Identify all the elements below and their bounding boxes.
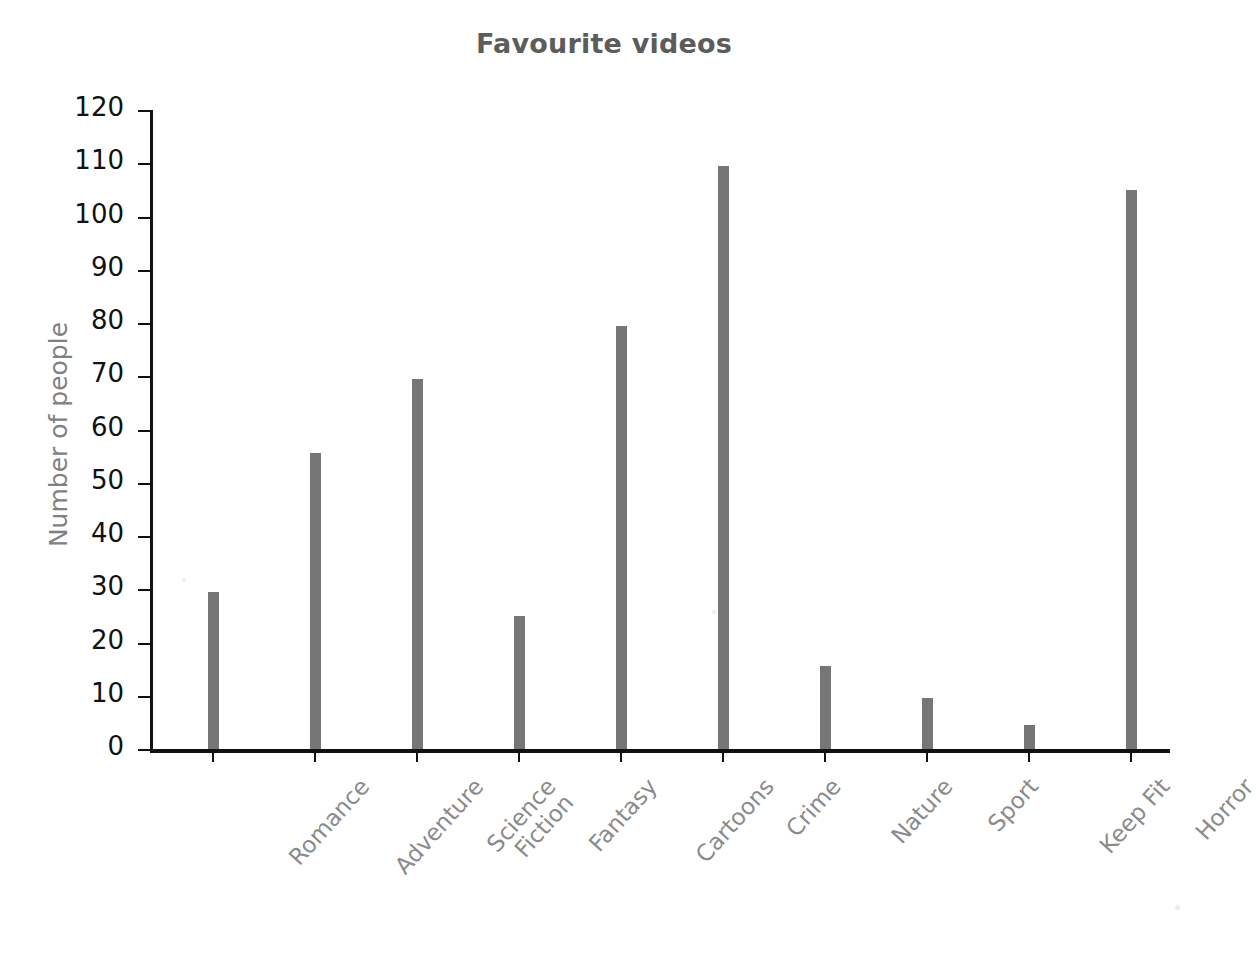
x-axis-label: Nature: [887, 774, 957, 848]
y-axis-line: [150, 110, 153, 752]
x-axis-label: Adventure: [391, 774, 489, 879]
y-axis-tick: [138, 483, 150, 485]
bar: [208, 592, 219, 749]
x-axis-tick: [314, 753, 316, 762]
y-axis-tick-label: 20: [91, 625, 124, 655]
y-axis-tick: [138, 749, 150, 751]
x-axis-label: Sport: [984, 774, 1043, 836]
y-axis-tick: [138, 163, 150, 165]
y-axis-tick-label: 100: [74, 199, 124, 229]
x-axis-label: Romance: [285, 774, 374, 870]
y-axis-tick-label: 90: [91, 252, 124, 282]
scan-speckle: [1175, 905, 1180, 910]
x-axis-line: [150, 749, 1170, 753]
chart-title: Favourite videos: [0, 28, 1208, 59]
x-axis-tick: [518, 753, 520, 762]
y-axis-title: Number of people: [44, 315, 73, 555]
bar: [514, 616, 525, 749]
y-axis-tick: [138, 110, 150, 112]
plot-area: 1201101009080706050403020100: [150, 110, 1170, 752]
y-axis-tick-label: 50: [91, 465, 124, 495]
y-axis-tick: [138, 376, 150, 378]
x-axis-label: Fantasy: [585, 774, 662, 856]
x-axis-label: Crime: [782, 774, 846, 841]
bar: [412, 379, 423, 749]
x-axis-tick: [926, 753, 928, 762]
y-axis-tick-label: 110: [74, 145, 124, 175]
x-axis-tick: [620, 753, 622, 762]
x-axis-label: Cartoons: [691, 774, 778, 867]
y-axis-tick-label: 80: [91, 305, 124, 335]
bar: [718, 166, 729, 749]
x-axis-tick: [416, 753, 418, 762]
y-axis-tick: [138, 696, 150, 698]
y-axis-tick-label: 40: [91, 518, 124, 548]
y-axis-tick-label: 10: [91, 678, 124, 708]
x-axis-tick: [722, 753, 724, 762]
scan-speckle: [712, 610, 716, 614]
x-axis-label: Horror: [1191, 774, 1256, 844]
bar: [310, 453, 321, 749]
y-axis-tick: [138, 589, 150, 591]
y-axis-tick: [138, 270, 150, 272]
x-axis-label: Keep Fit: [1095, 774, 1174, 858]
y-axis-tick-label: 120: [74, 92, 124, 122]
x-axis-tick: [824, 753, 826, 762]
bar: [1126, 190, 1137, 749]
x-axis-tick: [1130, 753, 1132, 762]
scan-speckle: [182, 578, 186, 582]
bar: [616, 326, 627, 749]
y-axis-tick-label: 70: [91, 358, 124, 388]
bar: [922, 698, 933, 749]
y-axis-tick-label: 60: [91, 412, 124, 442]
bar: [1024, 725, 1035, 749]
y-axis-tick-label: 0: [107, 731, 124, 761]
x-axis-tick: [212, 753, 214, 762]
y-axis-tick: [138, 536, 150, 538]
y-axis-tick-label: 30: [91, 571, 124, 601]
y-axis-tick: [138, 643, 150, 645]
y-axis-tick: [138, 217, 150, 219]
y-axis-tick: [138, 430, 150, 432]
bar: [820, 666, 831, 749]
x-axis-tick: [1028, 753, 1030, 762]
x-axis-label: Science Fiction: [483, 774, 579, 873]
y-axis-tick: [138, 323, 150, 325]
